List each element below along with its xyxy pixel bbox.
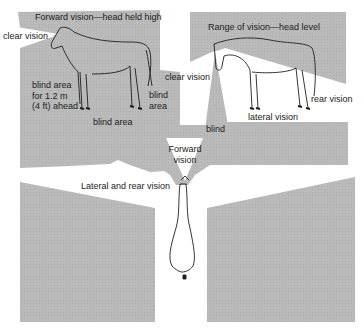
clear-vision-right-label: clear vision <box>165 72 210 83</box>
range-of-vision-title: Range of vision—head level <box>208 22 320 33</box>
blind-cone <box>205 52 228 130</box>
horse-vision-diagram: Forward vision—head held high clear visi… <box>0 0 364 330</box>
rear-vision-label: rear vision <box>311 94 353 105</box>
blind-area-under-label: blind area <box>93 117 133 128</box>
diagram-canvas <box>0 0 364 330</box>
blind-area-ahead-label: blind area for 1.2 m (4 ft) ahead <box>32 80 78 112</box>
clear-vision-left-label: clear vision <box>3 31 48 42</box>
blind-label: blind <box>206 124 225 135</box>
lateral-rear-vision-label: Lateral and rear vision <box>81 181 170 192</box>
forward-vision-label: Forward vision <box>164 144 206 165</box>
shade-bottom-right <box>207 177 355 322</box>
blind-area-rear-label: blind area <box>149 90 168 111</box>
lateral-vision-label: lateral vision <box>248 112 298 123</box>
shade-bottom-left <box>20 182 155 322</box>
forward-vision-title: Forward vision—head held high <box>35 12 162 23</box>
horse-top-view-icon <box>170 176 195 279</box>
